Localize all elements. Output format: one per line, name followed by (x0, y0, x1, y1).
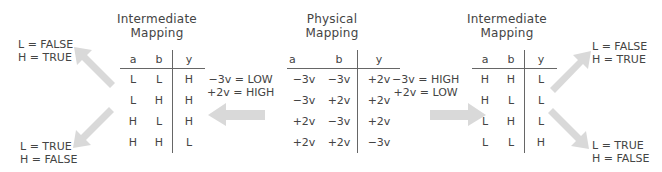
title-line: Physical (292, 12, 372, 26)
mapping-line: −3v = LOW (207, 73, 274, 86)
cell: L (498, 132, 525, 153)
cell: −3v (287, 69, 321, 91)
header-b: b (498, 50, 525, 69)
title-line: Mapping (467, 26, 547, 40)
cell: H (525, 132, 558, 153)
left-truth-table: a b y L L H L H H H L H H H L (120, 50, 205, 153)
table-row: +2v −3v +2v (287, 111, 400, 132)
mapping-line: +2v = LOW (392, 86, 459, 99)
cell: L (472, 132, 498, 153)
right-voltage-mapping-label: −3v = HIGH +2v = LOW (392, 73, 459, 99)
header-a: a (287, 50, 321, 69)
header-y: y (358, 50, 401, 69)
cell: L (173, 132, 206, 153)
cell: +2v (321, 132, 358, 153)
left-top-logic-label: L = FALSE H = TRUE (18, 38, 73, 64)
cell: L (146, 111, 173, 132)
table-row: L L H (120, 69, 205, 91)
right-table-title: Intermediate Mapping (467, 12, 547, 40)
cell: H (173, 69, 206, 91)
cell: L (525, 111, 558, 132)
table-row: −3v −3v +2v (287, 69, 400, 91)
logic-line: L = FALSE (592, 40, 647, 53)
logic-line: L = TRUE (20, 140, 77, 153)
arrow-left-down-icon (73, 107, 114, 148)
cell: L (120, 69, 146, 91)
center-table-title: Physical Mapping (292, 12, 372, 40)
cell: −3v (321, 111, 358, 132)
logic-line: H = FALSE (592, 152, 649, 165)
cell: H (146, 132, 173, 153)
cell: L (498, 90, 525, 111)
cell: −3v (287, 90, 321, 111)
cell: L (525, 69, 558, 91)
table-row: H H L (120, 132, 205, 153)
cell: H (472, 90, 498, 111)
cell: H (498, 69, 525, 91)
cell: +2v (321, 90, 358, 111)
header-b: b (321, 50, 358, 69)
logic-line: L = FALSE (18, 38, 73, 51)
cell: +2v (287, 111, 321, 132)
cell: H (472, 69, 498, 91)
cell: H (146, 90, 173, 111)
title-line: Mapping (292, 26, 372, 40)
right-bottom-logic-label: L = TRUE H = FALSE (592, 139, 649, 165)
header-a: a (120, 50, 146, 69)
mapping-line: +2v = HIGH (207, 86, 274, 99)
left-voltage-mapping-label: −3v = LOW +2v = HIGH (207, 73, 274, 99)
logic-line: H = TRUE (592, 53, 647, 66)
table-row: H H L (472, 69, 557, 91)
cell: L (525, 90, 558, 111)
title-line: Mapping (117, 26, 197, 40)
arrow-left-icon (208, 103, 265, 126)
cell: H (498, 111, 525, 132)
cell: +2v (287, 132, 321, 153)
arrow-left-up-icon (74, 47, 115, 88)
title-line: Intermediate (117, 12, 197, 26)
table-row: L H L (472, 111, 557, 132)
logic-line: L = TRUE (592, 139, 649, 152)
cell: L (146, 69, 173, 91)
cell: +2v (358, 111, 401, 132)
right-top-logic-label: L = FALSE H = TRUE (592, 40, 647, 66)
cell: H (173, 111, 206, 132)
logic-line: H = FALSE (20, 153, 77, 166)
table-row: +2v +2v −3v (287, 132, 400, 153)
cell: H (120, 132, 146, 153)
cell: L (120, 90, 146, 111)
table-row: L H H (120, 90, 205, 111)
cell: −3v (321, 69, 358, 91)
cell: L (472, 111, 498, 132)
header-y: y (173, 50, 206, 69)
table-row: −3v +2v +2v (287, 90, 400, 111)
header-y: y (525, 50, 558, 69)
logic-line: H = TRUE (18, 51, 73, 64)
header-b: b (146, 50, 173, 69)
physical-truth-table: a b y −3v −3v +2v −3v +2v +2v +2v −3v +2… (287, 50, 400, 153)
title-line: Intermediate (467, 12, 547, 26)
right-truth-table: a b y H H L H L L L H L L L H (472, 50, 557, 153)
table-row: L L H (472, 132, 557, 153)
mapping-line: −3v = HIGH (392, 73, 459, 86)
cell: H (173, 90, 206, 111)
cell: H (120, 111, 146, 132)
cell: −3v (358, 132, 401, 153)
table-row: H L H (120, 111, 205, 132)
header-a: a (472, 50, 498, 69)
table-row: H L L (472, 90, 557, 111)
left-table-title: Intermediate Mapping (117, 12, 197, 40)
left-bottom-logic-label: L = TRUE H = FALSE (20, 140, 77, 166)
